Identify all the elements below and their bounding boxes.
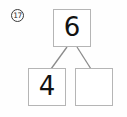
connector-line-right bbox=[77, 47, 91, 69]
whole-value: 6 bbox=[64, 14, 81, 40]
part-box-right[interactable] bbox=[75, 68, 113, 106]
whole-box[interactable]: 6 bbox=[53, 9, 91, 47]
worksheet-problem: 17 6 4 bbox=[0, 0, 127, 117]
part-value-left: 4 bbox=[39, 73, 56, 99]
connector-line-left bbox=[51, 47, 67, 69]
part-box-left[interactable]: 4 bbox=[28, 68, 66, 106]
